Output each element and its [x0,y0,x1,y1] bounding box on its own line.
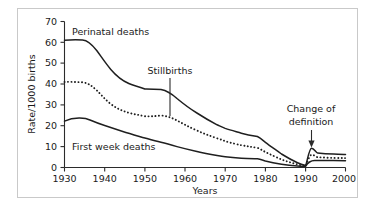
x-axis-title: Years [191,185,217,196]
y-tick-label-10: 10 [45,141,57,152]
x-tick-label-1940: 1940 [93,173,117,184]
x-tick-label-1930: 1930 [52,173,76,184]
annotation-change-of-definition-line1: Change of [287,103,336,114]
down-arrow-icon [308,141,314,148]
y-tick-label-20: 20 [45,120,57,131]
y-tick-label-50: 50 [45,57,57,68]
annotation-change-of-definition-line2: definition [289,116,334,127]
x-tick-label-1950: 1950 [133,173,157,184]
y-tick-label-0: 0 [51,162,57,173]
x-tick-label-1960: 1960 [173,173,197,184]
x-tick-label-2000: 2000 [332,173,356,184]
y-axis-ticks [61,22,65,168]
y-axis-title: Rate/1000 births [26,54,37,134]
y-tick-label-30: 30 [45,99,57,110]
x-tick-label-1980: 1980 [253,173,277,184]
annotation-perinatal-deaths: Perinatal deaths [72,26,149,37]
x-tick-label-1990: 1990 [294,173,318,184]
annotation-stillbirths: Stillbirths [148,65,193,76]
y-tick-label-40: 40 [45,78,57,89]
chart-figure: 0 10 20 30 40 50 60 70 1930 1940 1950 19… [0,0,375,210]
y-tick-label-70: 70 [45,16,57,27]
annotation-first-week-deaths: First week deaths [72,141,155,152]
y-tick-label-60: 60 [45,37,57,48]
x-tick-label-1970: 1970 [213,173,237,184]
chart-plot-area: 0 10 20 30 40 50 60 70 1930 1940 1950 19… [0,0,375,210]
x-axis-ticks [65,168,346,172]
